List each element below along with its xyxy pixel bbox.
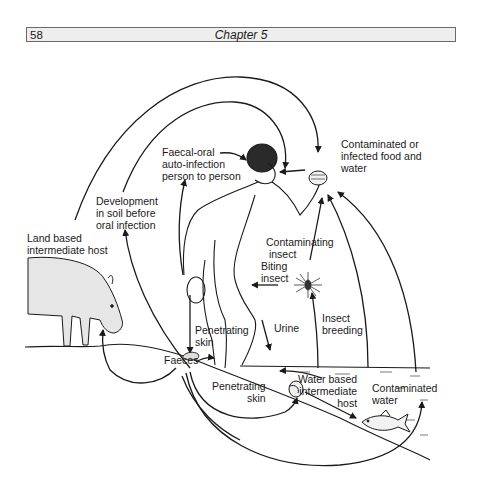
label-development-soil: Development in soil before oral infectio… [96,195,158,231]
label-penetrating-skin-1: Penetrating skin [195,324,249,348]
arrow-water-to-insect [312,293,318,368]
label-water-host: Water based intermediate host [298,373,357,409]
label-penetrating-skin-2: Penetrating skin [212,380,266,404]
water-surface [240,366,430,368]
label-land-host: Land based intermediate host [27,232,108,256]
label-faeces: Faeces [164,354,198,366]
label-faecal-oral: Faecal-oral auto-infection person to per… [162,146,241,182]
pig [28,257,123,346]
insect [294,272,322,298]
label-contaminating-insect: Contaminating insect [266,236,334,260]
label-biting-insect: Biting insect [261,260,288,284]
label-contaminated-water: Contaminated water [372,382,437,406]
food-bowl [309,171,327,185]
arrow-food-to-mouth [280,170,305,172]
arrow-hand-up [179,180,185,275]
arrow-water-to-food-2 [338,192,416,372]
arrow-water-to-food-1 [328,195,368,367]
arrow-urine [262,320,270,350]
label-contaminated-food: Contaminated or infected food and water [341,138,422,174]
label-urine: Urine [274,322,299,334]
label-insect-breeding: Insect breeding [322,312,363,336]
fish [362,410,410,432]
